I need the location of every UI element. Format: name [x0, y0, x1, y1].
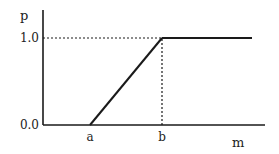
axes — [43, 10, 265, 125]
guide-lines — [43, 38, 162, 125]
series-segment-1 — [90, 38, 162, 125]
x-axis-label: m — [232, 135, 244, 150]
series — [90, 38, 252, 125]
y-axis-label: p — [20, 8, 28, 23]
y-tick-label-1: 1.0 — [20, 31, 39, 45]
y-tick-label-0: 0.0 — [20, 118, 39, 132]
x-tick-label-a: a — [86, 130, 93, 144]
x-tick-label-b: b — [158, 130, 166, 144]
membership-function-diagram: p m 1.0 0.0 a b — [0, 0, 279, 154]
